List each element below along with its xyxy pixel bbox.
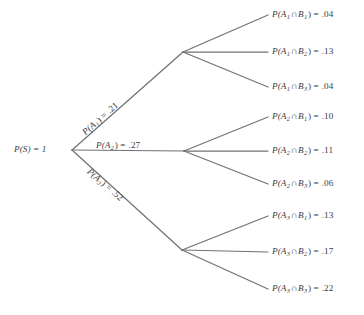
leaf-label-a2b1-preb: B: [298, 111, 304, 121]
leaf-label-a3b3-cap: ∩: [290, 283, 298, 293]
leaf-label-a1b3-cap: ∩: [290, 81, 298, 91]
leaf-label-a2b2-cap: ∩: [290, 145, 298, 155]
leaf-label-a2b1-value: .10: [322, 111, 334, 121]
edge-a3-a3b3: [182, 250, 268, 289]
leaf-label-a3b1: P(A3∩B1) = .13: [272, 211, 333, 220]
leaf-label-a1b2-sub-a: 1: [287, 50, 291, 57]
leaf-label-a1b2-op: ) =: [307, 46, 321, 56]
edge-a2-a2b1: [184, 117, 268, 151]
leaf-label-a1b1-sub-b: 1: [304, 13, 308, 20]
leaf-label-a1b2-value: .13: [322, 46, 334, 56]
leaf-label-a3b1-value: .13: [322, 210, 334, 220]
leaf-label-a2b3-value: .06: [322, 178, 334, 188]
leaf-label-a1b2-cap: ∩: [290, 46, 298, 56]
leaf-label-a1b1-sub-a: 1: [287, 13, 291, 20]
edge-a1-a1b3: [183, 52, 268, 87]
leaf-label-a1b3-sub-a: 1: [287, 85, 291, 92]
leaf-label-a2b3-op: ) =: [307, 178, 321, 188]
leaf-label-a3b2-preb: B: [298, 246, 304, 256]
leaf-label-a1b1: P(A1∩B1) = .04: [272, 10, 333, 19]
leaf-label-a3b1-cap: ∩: [290, 210, 298, 220]
leaf-label-a3b1-op: ) =: [307, 210, 321, 220]
leaf-label-a1b1-value: .04: [322, 9, 334, 19]
edge-a1-a1b1: [183, 15, 268, 52]
leaf-label-a1b3-op: ) =: [307, 81, 321, 91]
branch-label-a2-sub: 2: [111, 144, 115, 151]
leaf-label-a1b3-value: .04: [322, 81, 334, 91]
leaf-label-a3b2-sub-a: 3: [287, 250, 291, 257]
branch-label-a2: P(A2) = .27: [96, 141, 140, 150]
probability-tree-figure: P(S) = 1 P(A1) = .21 P(A2) = .27 P(A3) =…: [0, 0, 364, 315]
leaf-label-a3b3: P(A3∩B3) = .22: [272, 284, 333, 293]
leaf-label-a3b3-sub-a: 3: [287, 287, 291, 294]
edge-a2-a2b3: [184, 151, 268, 184]
leaf-label-a2b3-sub-b: 3: [304, 182, 308, 189]
root-label: P(S) = 1: [14, 145, 47, 154]
leaf-label-a2b2-sub-b: 2: [304, 149, 308, 156]
leaf-label-a3b3-op: ) =: [307, 283, 321, 293]
edge-a3-a3b2: [182, 250, 268, 252]
leaf-label-a3b3-pre: P(A: [272, 283, 287, 293]
leaf-label-a3b3-preb: B: [298, 283, 304, 293]
leaf-label-a2b1-pre: P(A: [272, 111, 287, 121]
leaf-label-a2b2-sub-a: 2: [287, 149, 291, 156]
leaf-label-a1b2: P(A1∩B2) = .13: [272, 47, 333, 56]
leaf-label-a2b1-op: ) =: [307, 111, 321, 121]
leaf-label-a3b2-sub-b: 2: [304, 250, 308, 257]
leaf-label-a2b2-pre: P(A: [272, 145, 287, 155]
leaf-label-a3b2-value: .17: [322, 246, 334, 256]
leaf-label-a3b1-sub-b: 1: [304, 214, 308, 221]
leaf-label-a3b1-sub-a: 3: [287, 214, 291, 221]
leaf-label-a3b2-op: ) =: [307, 246, 321, 256]
leaf-label-a2b3-preb: B: [298, 178, 304, 188]
leaf-label-a2b3-pre: P(A: [272, 178, 287, 188]
leaf-label-a2b1-sub-b: 1: [304, 115, 308, 122]
leaf-label-a3b1-preb: B: [298, 210, 304, 220]
leaf-label-a2b2-preb: B: [298, 145, 304, 155]
leaf-label-a1b2-pre: P(A: [272, 46, 287, 56]
leaf-label-a2b1: P(A2∩B1) = .10: [272, 112, 333, 121]
leaf-label-a1b2-preb: B: [298, 46, 304, 56]
leaf-label-a1b1-pre: P(A: [272, 9, 287, 19]
leaf-label-a1b3-preb: B: [298, 81, 304, 91]
leaf-label-a2b3: P(A2∩B3) = .06: [272, 179, 333, 188]
leaf-label-a2b1-sub-a: 2: [287, 115, 291, 122]
edge-a3-a3b1: [182, 216, 268, 250]
leaf-label-a2b2: P(A2∩B2) = .11: [272, 146, 333, 155]
leaf-label-a3b2: P(A3∩B2) = .17: [272, 247, 333, 256]
leaf-label-a1b3-pre: P(A: [272, 81, 287, 91]
leaf-label-a3b3-value: .22: [322, 283, 334, 293]
branch-label-a2-name: P(A: [96, 140, 111, 150]
leaf-label-a1b1-preb: B: [298, 9, 304, 19]
edge-root-a3: [72, 150, 182, 250]
leaf-label-a2b2-value: .11: [322, 145, 333, 155]
leaf-label-a1b2-sub-b: 2: [304, 50, 308, 57]
leaf-label-a3b2-pre: P(A: [272, 246, 287, 256]
leaf-label-a1b1-op: ) =: [307, 9, 321, 19]
leaf-label-a1b3-sub-b: 3: [304, 85, 308, 92]
leaf-label-a2b3-cap: ∩: [290, 178, 298, 188]
leaf-label-a3b2-cap: ∩: [290, 246, 298, 256]
leaf-label-a2b3-sub-a: 2: [287, 182, 291, 189]
root-label-text: P(S) = 1: [14, 144, 47, 154]
branch-label-a2-value: .27: [129, 140, 141, 150]
leaf-label-a2b2-op: ) =: [307, 145, 321, 155]
leaf-label-a3b1-pre: P(A: [272, 210, 287, 220]
leaf-label-a1b3: P(A1∩B3) = .04: [272, 82, 333, 91]
leaf-label-a3b3-sub-b: 3: [304, 287, 308, 294]
branch-label-a2-op: ) =: [114, 140, 128, 150]
leaf-label-a1b1-cap: ∩: [290, 9, 298, 19]
leaf-label-a2b1-cap: ∩: [290, 111, 298, 121]
